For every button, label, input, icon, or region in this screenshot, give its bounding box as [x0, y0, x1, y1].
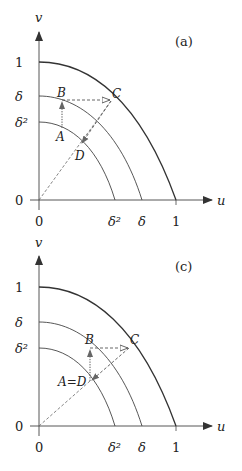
y-tick-label: 1	[15, 55, 23, 70]
x-tick-label: 0	[35, 440, 43, 455]
x-axis-label: u	[217, 193, 225, 208]
x-tick-label: δ²	[108, 440, 121, 455]
panel-label: (a)	[175, 34, 193, 49]
x-tick-label: δ²	[108, 214, 121, 229]
point-a-label: A	[55, 130, 65, 144]
point-b-label: B	[84, 333, 94, 347]
x-tick-label: 0	[35, 214, 43, 229]
y-axis-label: v	[35, 235, 43, 250]
x-tick-label: 1	[172, 440, 180, 455]
curve-middle	[39, 96, 142, 200]
point-c-label: C	[130, 333, 139, 347]
y-tick-label: 0	[15, 419, 23, 434]
x-axis-label: u	[217, 419, 225, 434]
x-tick-label: δ	[138, 440, 146, 455]
y-tick-label: δ²	[15, 341, 28, 356]
y-tick-label: δ²	[15, 115, 28, 130]
y-axis-label: v	[35, 10, 43, 25]
point-ad-label: A=D	[57, 375, 87, 389]
y-tick-label: 1	[15, 280, 23, 295]
point-c-label: C	[112, 87, 121, 101]
point-d-label: D	[74, 149, 85, 163]
arrow-c-to-d	[92, 348, 129, 380]
arrow-c-to-d	[82, 101, 111, 143]
x-tick-label: δ	[138, 214, 146, 229]
y-tick-label: δ	[15, 315, 23, 330]
panel-c: (c) v u 1 δ δ² 0 0 δ² δ 1 B A=D C	[15, 235, 225, 455]
diagram-canvas: (a) v u 1 δ δ² 0 0 δ² δ 1 B A C D (c) v …	[0, 0, 242, 471]
panel-a: (a) v u 1 δ δ² 0 0 δ² δ 1 B A C D	[15, 10, 225, 229]
panel-label: (c)	[175, 259, 192, 274]
point-b-label: B	[56, 86, 66, 100]
y-tick-label: 0	[15, 193, 23, 208]
x-tick-label: 1	[172, 214, 180, 229]
y-tick-label: δ	[15, 89, 23, 104]
